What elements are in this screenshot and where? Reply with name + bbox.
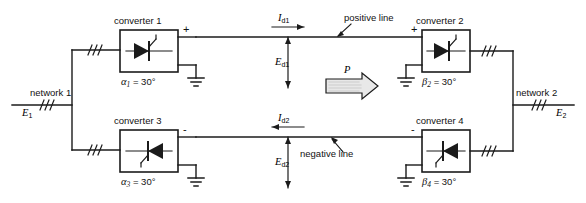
current-id2-symbol: I — [278, 112, 282, 123]
converter-4-terminal-sign: - — [411, 124, 415, 135]
thyristor-symbol-converter-4 — [436, 142, 458, 167]
thyristor-symbol-converter-3 — [141, 142, 163, 167]
current-id1-arrow — [272, 24, 304, 30]
converter-1-ground-symbol — [188, 78, 204, 86]
converter-4-angle-sub: 4 — [427, 180, 431, 189]
current-id1-sub: d1 — [282, 17, 290, 24]
network-2-voltage-sub: 2 — [562, 112, 566, 119]
current-id2-label: Id2 — [278, 112, 289, 123]
voltage-ed2-label: Ed2 — [275, 156, 289, 167]
converter-3-angle: α3 = 30° — [121, 177, 155, 188]
converter-4-angle-value: = 30° — [434, 176, 457, 187]
voltage-ed1-label: Ed1 — [275, 56, 289, 67]
three-phase-ticks-bottom-right — [482, 146, 496, 156]
network-1-voltage-sub: 1 — [28, 112, 32, 119]
network-1-label: network 1 — [30, 88, 71, 98]
network-2-voltage: E2 — [556, 107, 566, 118]
negative-line-label: negative line — [300, 149, 353, 159]
converter-1-angle-symbol: α — [121, 76, 127, 87]
positive-line-label: positive line — [344, 13, 394, 23]
converter-2-angle: β2 = 30° — [422, 77, 456, 88]
converter-3-label: converter 3 — [114, 116, 162, 126]
diagram-svg — [0, 0, 586, 203]
converter-4-ground-symbol — [398, 178, 414, 186]
converter-2-angle-value: = 30° — [434, 76, 457, 87]
converter-1-angle: α1 = 30° — [121, 77, 155, 88]
three-phase-ticks-top-left — [88, 45, 102, 55]
voltage-ed2-sub: d2 — [281, 161, 289, 168]
converter-1-angle-sub: 1 — [127, 80, 131, 89]
converter-3-terminal-sign: - — [183, 124, 187, 135]
current-id2-arrow — [272, 124, 304, 130]
converter-2-terminal-sign: + — [411, 24, 417, 35]
network-1-voltage: E1 — [22, 107, 32, 118]
three-phase-ticks-top-right — [482, 46, 496, 56]
three-phase-ticks-bottom-left — [88, 145, 102, 155]
power-flow-label: P — [344, 64, 350, 75]
current-id1-label: Id1 — [278, 12, 289, 23]
voltage-ed1-sub: d1 — [281, 61, 289, 68]
three-phase-ticks-network2 — [532, 100, 546, 110]
three-phase-ticks-network1 — [40, 100, 54, 110]
diagram-canvas: converter 1 converter 3 converter 2 conv… — [0, 0, 586, 203]
converter-3-angle-sub: 3 — [127, 180, 131, 189]
thyristor-symbol-converter-2 — [434, 35, 456, 60]
network-2-label: network 2 — [516, 88, 557, 98]
converter-2-ground-symbol — [398, 78, 414, 86]
converter-2-angle-sub: 2 — [427, 80, 431, 89]
power-flow-arrow — [326, 73, 378, 99]
converter-3-angle-symbol: α — [121, 176, 127, 187]
converter-1-terminal-sign: + — [183, 24, 189, 35]
current-id1-symbol: I — [278, 12, 282, 23]
converter-3-angle-value: = 30° — [133, 176, 156, 187]
converter-4-angle: β4 = 30° — [422, 177, 456, 188]
converter-2-label: converter 2 — [416, 16, 464, 26]
thyristor-symbol-converter-1 — [134, 35, 156, 60]
positive-line-leader — [337, 24, 351, 37]
converter-1-label: converter 1 — [114, 16, 162, 26]
converter-1-angle-value: = 30° — [133, 76, 156, 87]
current-id2-sub: d2 — [282, 117, 290, 124]
converter-3-ground-symbol — [188, 178, 204, 186]
converter-4-label: converter 4 — [416, 116, 464, 126]
